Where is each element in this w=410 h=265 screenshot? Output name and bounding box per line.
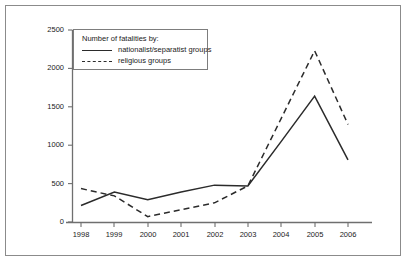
x-tick-label-2002: 2002 [201,230,229,239]
y-tick-label-1500: 1500 [38,102,64,111]
y-axis-ticks [68,30,73,222]
x-tick-label-2001: 2001 [167,230,195,239]
chart-legend: Number of fatalities by: nationalist/sep… [73,29,208,70]
legend-label-nationalist-separatist: nationalist/separatist groups [118,45,211,54]
x-axis-ticks [81,223,348,228]
x-tick-label-2005: 2005 [301,230,329,239]
x-tick-label-2006: 2006 [334,230,362,239]
x-tick-label-2000: 2000 [134,230,162,239]
series-religious-line [81,51,348,217]
x-tick-label-2003: 2003 [234,230,262,239]
legend-swatch-dashed-line-icon [82,61,112,62]
y-tick-label-0: 0 [38,217,64,226]
y-tick-label-2000: 2000 [38,63,64,72]
chart-series [81,51,348,217]
x-tick-label-2004: 2004 [267,230,295,239]
y-tick-label-2500: 2500 [38,25,64,34]
legend-title: Number of fatalities by: [82,34,159,43]
series-nationalist-separatist-line [81,96,348,205]
x-tick-label-1999: 1999 [100,230,128,239]
x-tick-label-1998: 1998 [67,230,95,239]
y-tick-label-1000: 1000 [38,140,64,149]
legend-swatch-solid-line-icon [82,50,112,51]
y-tick-label-500: 500 [38,179,64,188]
legend-label-religious: religious groups [118,56,171,65]
